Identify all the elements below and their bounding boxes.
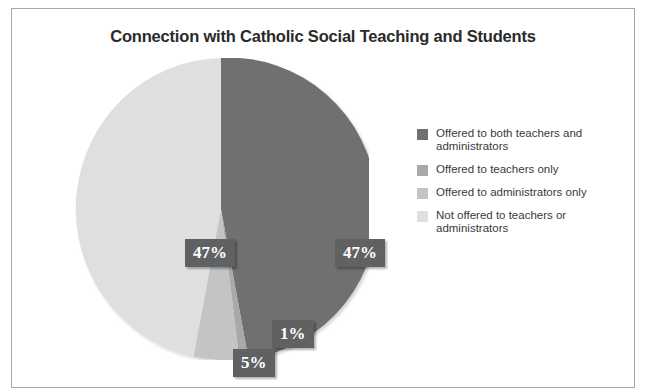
pie-chart: 47% 1% 5% 47% (73, 58, 369, 360)
legend-label-not-offered: Not offered to teachers or administrator… (436, 209, 622, 235)
chart-legend: Offered to both teachers and administrat… (417, 127, 622, 245)
legend-swatch-icon-offered-to-both (417, 129, 428, 140)
legend-item-not-offered[interactable]: Not offered to teachers or administrator… (417, 209, 622, 235)
pie-svg (73, 58, 369, 360)
pie-data-label-offered-to-both: 47% (335, 239, 385, 267)
legend-item-offered-to-administrators-only[interactable]: Offered to administrators only (417, 186, 622, 199)
pie-data-label-offered-to-administrators-only: 5% (233, 349, 275, 377)
legend-label-offered-to-administrators-only: Offered to administrators only (436, 186, 587, 199)
legend-swatch-icon-offered-to-teachers-only (417, 165, 428, 176)
pie-data-label-not-offered: 47% (185, 239, 235, 267)
pie-data-label-offered-to-teachers-only: 1% (272, 320, 314, 348)
chart-title: Connection with Catholic Social Teaching… (11, 27, 635, 46)
pie-slice-offered-to-both[interactable] (221, 58, 369, 359)
legend-label-offered-to-both: Offered to both teachers and administrat… (436, 127, 622, 153)
legend-item-offered-to-teachers-only[interactable]: Offered to teachers only (417, 163, 622, 176)
legend-item-offered-to-both[interactable]: Offered to both teachers and administrat… (417, 127, 622, 153)
legend-label-offered-to-teachers-only: Offered to teachers only (436, 163, 559, 176)
pie-slice-not-offered[interactable] (76, 58, 221, 357)
legend-swatch-icon-offered-to-administrators-only (417, 188, 428, 199)
legend-swatch-icon-not-offered (417, 211, 428, 222)
